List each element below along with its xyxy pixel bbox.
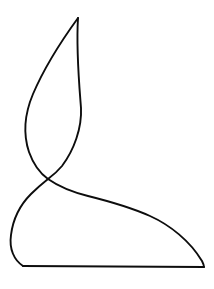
figure-root	[0, 0, 214, 289]
canvas-background	[0, 0, 214, 289]
line-drawing-canvas	[0, 0, 214, 289]
base-bottom-edge-path	[23, 266, 204, 267]
